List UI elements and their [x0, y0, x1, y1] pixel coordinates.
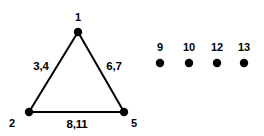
isolated-graph-node	[240, 59, 248, 67]
isolated-graph-node	[156, 59, 164, 67]
isolated-vertex-label: 12	[211, 41, 223, 53]
isolated-vertex-label: 9	[157, 41, 163, 53]
vertex-label: 1	[75, 11, 81, 23]
isolated-vertex-label: 13	[238, 41, 250, 53]
vertex-label: 5	[131, 117, 137, 129]
graph-node	[25, 108, 33, 116]
diagram-canvas: 3,46,78,111259101213	[0, 0, 264, 136]
edge-label: 8,11	[67, 118, 88, 130]
edges-group	[29, 32, 124, 112]
graph-node	[120, 108, 128, 116]
isolated-graph-node	[185, 59, 193, 67]
graph-edge	[29, 32, 78, 112]
vertex-label: 2	[9, 117, 15, 129]
edge-label: 6,7	[106, 60, 121, 72]
isolated-graph-node	[213, 59, 221, 67]
graph-edge	[78, 32, 124, 112]
isolated-vertex-label: 10	[183, 41, 195, 53]
edge-label: 3,4	[33, 60, 48, 72]
graph-node	[74, 28, 82, 36]
